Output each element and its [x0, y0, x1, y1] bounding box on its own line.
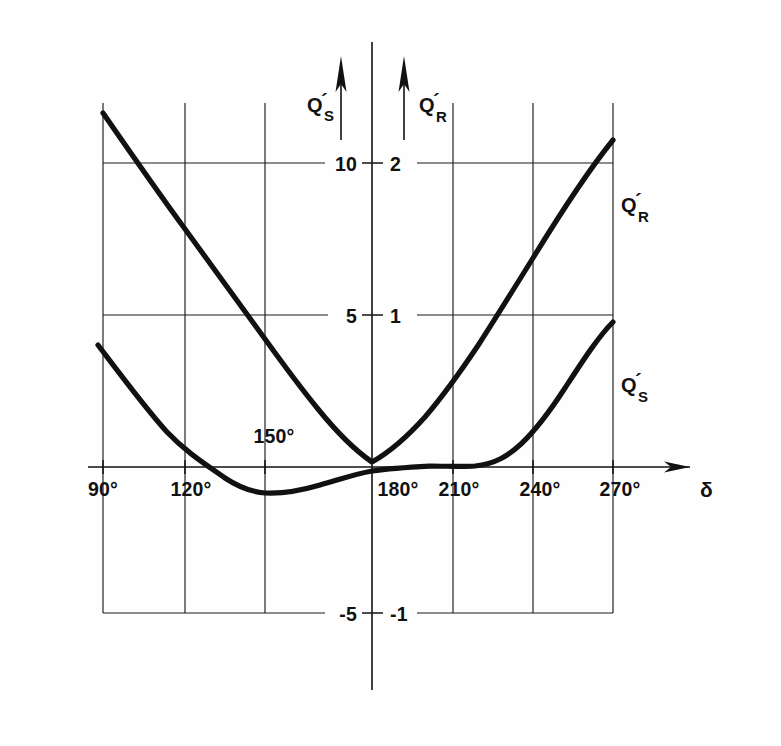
ytick-label-5: 5: [346, 305, 357, 327]
right-axis-name-sub: R: [436, 108, 447, 125]
chart-figure: 90° 120° 150° 180° 210° 240° 270° 10 5 -…: [0, 0, 781, 746]
xtick-label-90: 90°: [88, 478, 118, 500]
xtick-label-240: 240°: [519, 478, 560, 500]
ytick-label-2: 2: [390, 153, 401, 175]
grid-lines-vertical: [103, 103, 613, 613]
grid-lines-horizontal: [103, 163, 613, 613]
ytick-label-minus5: -5: [339, 603, 357, 625]
xtick-label-180: 180°: [377, 478, 418, 500]
xtick-label-150: 150°: [253, 425, 294, 447]
left-axis-name-sub: S: [324, 107, 334, 124]
curve-label-qs: Q ´ S: [621, 370, 648, 405]
xtick-label-120: 120°: [170, 478, 211, 500]
ytick-label-1: 1: [390, 305, 401, 327]
right-axis-name: Q ´ R: [419, 90, 447, 125]
curve-qr: [103, 113, 613, 462]
left-scale-tick-labels: 10 5 -5: [335, 153, 357, 625]
curve-label-qs-sub: S: [638, 388, 648, 405]
chart-canvas: 90° 120° 150° 180° 210° 240° 270° 10 5 -…: [0, 0, 781, 746]
x-axis-symbol-delta: δ: [700, 478, 713, 501]
xtick-label-210: 210°: [438, 478, 479, 500]
y-axis: [362, 42, 383, 690]
left-scale-axis-indicator: [336, 56, 347, 140]
right-scale-axis-indicator: [399, 56, 410, 140]
curve-label-qr: Q ´ R: [621, 190, 649, 225]
left-axis-name: Q ´ S: [307, 90, 334, 124]
xtick-label-270: 270°: [599, 478, 640, 500]
curve-label-qr-sub: R: [638, 208, 649, 225]
ytick-label-minus1: -1: [390, 603, 408, 625]
right-scale-tick-labels: 2 1 -1: [390, 153, 408, 625]
ytick-label-10: 10: [335, 153, 357, 175]
